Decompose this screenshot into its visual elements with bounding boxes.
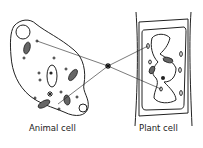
cell-diagram: Animal cell Plant cell [0,0,203,148]
animal-cell-label: Animal cell [29,123,76,133]
plant-chloroplasts [148,56,173,74]
animal-nucleus [47,65,57,87]
center-asterisk-marker [105,63,111,69]
animal-vacuole [16,25,30,39]
animal-centrosome [47,91,53,97]
animal-nucleolus [49,71,52,74]
plant-cell-label: Plant cell [139,123,178,133]
plant-nucleus [161,76,165,80]
animal-mitochondria [23,41,80,109]
animal-vesicle [79,104,87,112]
